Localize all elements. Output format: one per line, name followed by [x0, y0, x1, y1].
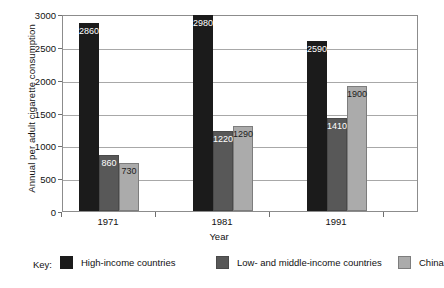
- x-tick-mark: [61, 212, 62, 217]
- bar-1991-series-2: 1900: [347, 86, 367, 211]
- y-tick-mark: [58, 15, 62, 16]
- bar-1991-series-0: 2590: [307, 41, 327, 211]
- legend-swatch-icon: [60, 256, 73, 269]
- y-tick-mark: [58, 146, 62, 147]
- bar-1981-series-2: 1290: [233, 126, 253, 211]
- bar-1991-series-1: 1410: [327, 118, 347, 211]
- legend-item-0: High-income countries: [60, 256, 176, 269]
- x-tick-mark: [383, 212, 384, 217]
- legend-label: China: [419, 257, 444, 268]
- x-tick-mark: [269, 212, 270, 217]
- x-tick-label-1991: 1991: [306, 216, 366, 227]
- y-tick-mark: [58, 179, 62, 180]
- bar-value-label: 860: [101, 159, 116, 168]
- y-tick-label: 3000: [14, 10, 56, 21]
- legend-swatch-icon: [216, 256, 229, 269]
- y-tick-mark: [58, 48, 62, 49]
- legend-label: High-income countries: [81, 257, 176, 268]
- y-tick-label: 1000: [14, 141, 56, 152]
- bar-value-label: 1900: [347, 90, 367, 99]
- gridline: [63, 49, 417, 50]
- legend-swatch-icon: [398, 256, 411, 269]
- legend-key-label: Key:: [33, 259, 52, 270]
- legend-label: Low- and middle-income countries: [237, 257, 382, 268]
- y-tick-mark: [58, 114, 62, 115]
- y-tick-label: 2500: [14, 42, 56, 53]
- bar-value-label: 730: [121, 167, 136, 176]
- y-tick-label: 2000: [14, 75, 56, 86]
- x-tick-label-1971: 1971: [78, 216, 138, 227]
- x-tick-mark: [155, 212, 156, 217]
- bar-1981-series-0: 2980: [193, 15, 213, 211]
- plot-area: 2860860730298012201290259014101900: [62, 15, 418, 212]
- y-tick-label: 500: [14, 174, 56, 185]
- x-tick-label-1981: 1981: [192, 216, 252, 227]
- y-tick-label: 0: [14, 207, 56, 218]
- x-axis-title: Year: [0, 231, 438, 242]
- bar-1971-series-2: 730: [119, 163, 139, 211]
- bar-1971-series-1: 860: [99, 155, 119, 211]
- y-tick-label: 1500: [14, 108, 56, 119]
- y-tick-mark: [58, 81, 62, 82]
- bar-value-label: 2860: [79, 27, 99, 36]
- chart-legend: Key: High-income countriesLow- and middl…: [33, 256, 423, 272]
- gridline: [63, 82, 417, 83]
- bar-1981-series-1: 1220: [213, 131, 233, 211]
- bar-value-label: 2980: [193, 19, 213, 28]
- bar-value-label: 1410: [327, 122, 347, 131]
- bar-1971-series-0: 2860: [79, 23, 99, 211]
- bar-value-label: 1220: [213, 135, 233, 144]
- legend-item-1: Low- and middle-income countries: [216, 256, 382, 269]
- legend-item-2: China: [398, 256, 444, 269]
- bar-value-label: 2590: [307, 45, 327, 54]
- bar-value-label: 1290: [233, 130, 253, 139]
